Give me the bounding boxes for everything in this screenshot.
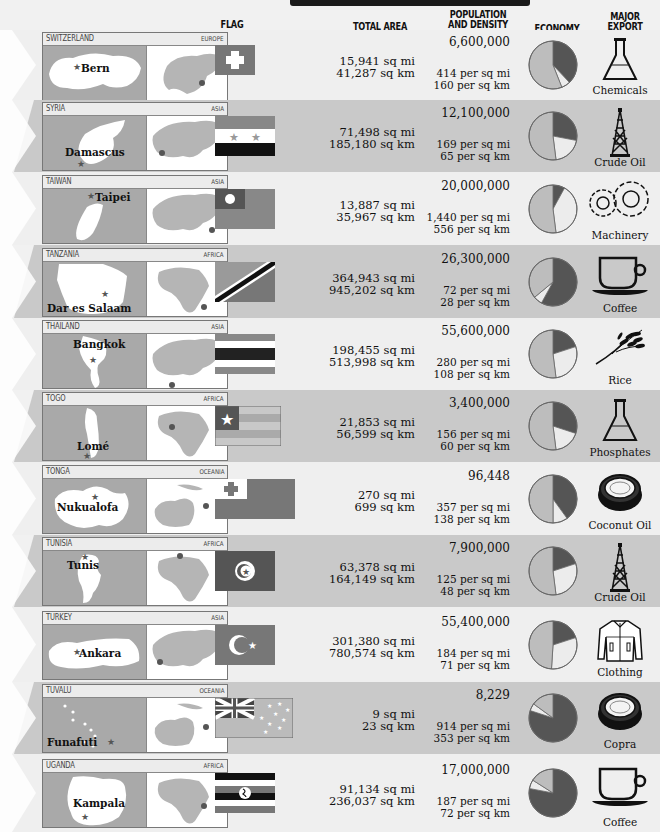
country-region: Africa [204, 762, 224, 770]
svg-text:★: ★ [251, 131, 261, 144]
country-region: Asia [211, 323, 224, 331]
country-region: Africa [204, 540, 224, 548]
country-name-bar: Togo Africa [43, 393, 227, 406]
oil-derrick-icon [580, 108, 660, 162]
country-card: Togo Africa ★ Lomé [42, 392, 228, 461]
country-map: ★ Bangkok [43, 334, 147, 388]
coffee-cup-icon [580, 254, 660, 300]
density-per-sq-km: 72 per sq km [390, 807, 510, 819]
density-per-sq-mi: 280 per sq mi [390, 356, 510, 368]
capital-name: Bern [81, 62, 110, 74]
country-name: Switzerland [46, 34, 94, 43]
country-name: Tuvalu [46, 686, 71, 695]
country-flag [215, 773, 275, 817]
flask-icon [580, 398, 660, 448]
density: 125 per sq mi 48 per sq km [390, 573, 510, 597]
row-chevron [0, 754, 40, 832]
row-chevron [0, 607, 40, 682]
population: 55,600,000 [398, 324, 510, 338]
capital-name: Bangkok [73, 338, 125, 350]
svg-text:★: ★ [267, 720, 272, 727]
country-region: Oceania [199, 468, 224, 476]
density-per-sq-km: 160 per sq km [390, 79, 510, 91]
capital-star-icon: ★ [77, 160, 85, 169]
density-per-sq-km: 28 per sq km [390, 296, 510, 308]
major-export: Coconut Oil [580, 519, 660, 531]
flask-icon [580, 37, 660, 87]
country-row: Uganda Africa ★ Kampala 91,134 sq mi 236… [0, 754, 660, 832]
economy-pie-chart [528, 768, 578, 822]
density: 187 per sq mi 72 per sq km [390, 795, 510, 819]
jacket-icon [580, 617, 660, 667]
population: 96,448 [398, 469, 510, 483]
population: 17,000,000 [398, 763, 510, 777]
country-flag [215, 189, 275, 233]
row-chevron [0, 172, 40, 245]
header-population: POPULATION AND DENSITY [445, 10, 511, 30]
capital-name: Dar es Salaam [47, 302, 131, 314]
density-per-sq-mi: 125 per sq mi [390, 573, 510, 585]
population: 6,600,000 [398, 35, 510, 49]
economy-pie-chart [528, 693, 578, 747]
density: 914 per sq mi 353 per sq km [390, 720, 510, 744]
country-flag: ★ [215, 406, 281, 450]
economy-pie-chart [528, 401, 578, 455]
svg-text:★: ★ [277, 724, 282, 731]
capital-name: Lomé [77, 440, 109, 452]
density-per-sq-mi: 414 per sq mi [390, 67, 510, 79]
country-row: Tuvalu Oceania ★ Funafuti ★★★★★★★★★ 9 sq… [0, 682, 660, 754]
country-name: Tonga [46, 467, 70, 476]
country-row: Taiwan Asia ★ Taipei 13,887 sq mi 35,967… [0, 172, 660, 245]
capital-star-icon: ★ [89, 356, 97, 365]
oil-derrick-icon [580, 543, 660, 597]
capital-name: Damascus [65, 146, 125, 158]
page-title-fragment [290, 0, 530, 8]
capital-star-icon: ★ [81, 813, 89, 822]
density-per-sq-mi: 1,440 per sq mi [390, 211, 510, 223]
country-region: Asia [211, 178, 224, 186]
capital-star-icon: ★ [83, 452, 91, 460]
population: 20,000,000 [398, 179, 510, 193]
capital-star-icon: ★ [87, 192, 95, 201]
country-name: Syria [46, 104, 65, 113]
country-name-bar: Thailand Asia [43, 321, 227, 334]
country-flag [215, 45, 255, 79]
density-per-sq-mi: 357 per sq mi [390, 501, 510, 513]
location-dot [201, 304, 207, 310]
country-map: ★ Damascus [43, 116, 147, 170]
country-card: Tunisia Africa ★ Tunis [42, 537, 228, 606]
economy-pie-chart [528, 329, 578, 383]
density: 1,440 per sq mi 556 per sq km [390, 211, 510, 235]
density: 156 per sq mi 60 per sq km [390, 428, 510, 452]
major-export: Rice [580, 374, 660, 386]
major-export: Crude Oil [580, 591, 660, 603]
economy-pie-chart [528, 546, 578, 600]
country-name: Taiwan [46, 177, 71, 186]
row-chevron [0, 535, 40, 607]
coconut-icon [580, 690, 660, 736]
capital-name: Taipei [95, 191, 131, 203]
country-name-bar: Tonga Oceania [43, 466, 227, 479]
country-card: Tanzania Africa ★ Dar es Salaam [42, 248, 228, 317]
country-card: Syria Asia ★ Damascus [42, 102, 228, 171]
country-name-bar: Tuvalu Oceania [43, 685, 227, 698]
svg-text:★: ★ [242, 567, 250, 577]
country-region: Oceania [199, 687, 224, 695]
country-map: ★ Kampala [43, 773, 147, 827]
population: 7,900,000 [398, 541, 510, 555]
location-dot [201, 803, 207, 809]
row-chevron [0, 100, 40, 172]
density-per-sq-km: 65 per sq km [390, 150, 510, 162]
country-card: Tuvalu Oceania ★ Funafuti [42, 684, 228, 753]
row-chevron [0, 682, 40, 754]
country-row: Togo Africa ★ Lomé ★ 21,853 sq mi 56,599… [0, 390, 660, 462]
country-card: Thailand Asia ★ Bangkok [42, 320, 228, 389]
density-per-sq-km: 138 per sq km [390, 513, 510, 525]
row-chevron [0, 318, 40, 390]
svg-text:★: ★ [259, 714, 264, 721]
country-card: Switzerland Europe ★ Bern [42, 32, 228, 101]
density-per-sq-mi: 72 per sq mi [390, 284, 510, 296]
svg-text:★: ★ [273, 710, 278, 717]
density: 280 per sq mi 108 per sq km [390, 356, 510, 380]
country-flag [215, 262, 275, 306]
